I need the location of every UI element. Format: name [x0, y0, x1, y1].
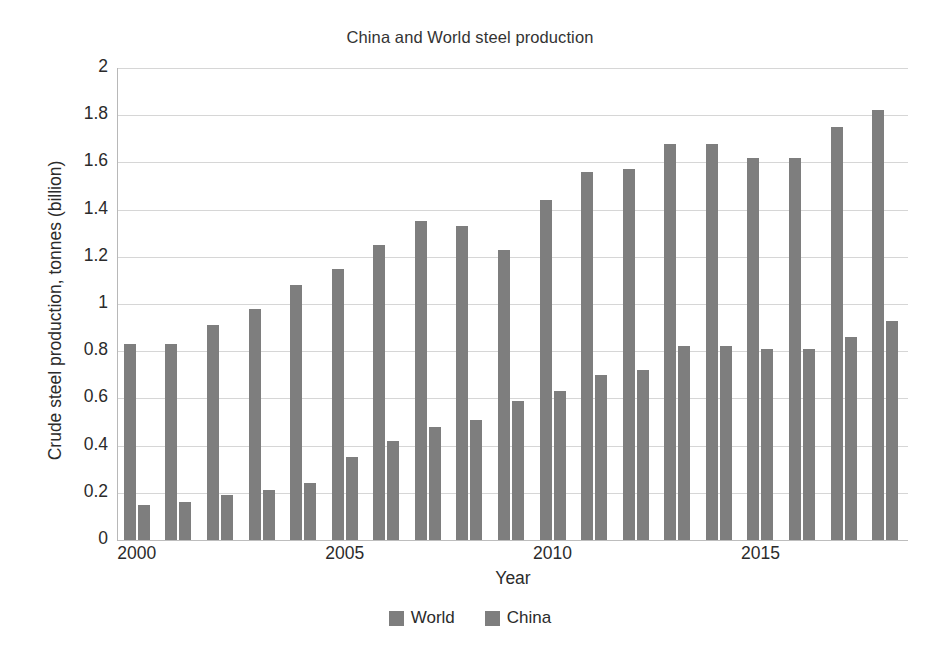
- bar-china-2015: [761, 349, 773, 540]
- gridline: [118, 68, 908, 69]
- y-tick-label: 0.2: [40, 481, 108, 502]
- y-tick-label: 0.8: [40, 339, 108, 360]
- bar-world-2001: [165, 344, 177, 540]
- bar-china-2009: [512, 401, 524, 540]
- x-tick-label: 2010: [516, 543, 590, 564]
- y-tick-label: 0: [40, 528, 108, 549]
- bar-world-2012: [623, 169, 635, 540]
- bar-world-2002: [207, 325, 219, 540]
- bar-world-2017: [831, 127, 843, 540]
- y-tick-label: 0.4: [40, 434, 108, 455]
- legend-swatch-icon: [485, 611, 500, 626]
- bar-world-2014: [706, 144, 718, 540]
- legend-swatch-icon: [389, 611, 404, 626]
- chart-figure: China and World steel production Crude s…: [0, 0, 940, 670]
- bar-china-2011: [595, 375, 607, 540]
- x-axis-title: Year: [118, 568, 908, 589]
- plot-area: [118, 68, 908, 540]
- chart-legend: WorldChina: [0, 608, 940, 628]
- bar-china-2005: [346, 457, 358, 540]
- y-tick-label: 1.6: [40, 150, 108, 171]
- bar-world-2018: [872, 110, 884, 540]
- bar-world-2005: [332, 269, 344, 540]
- bar-china-2016: [803, 349, 815, 540]
- bar-world-2011: [581, 172, 593, 540]
- x-tick-label: 2015: [723, 543, 797, 564]
- chart-title: China and World steel production: [0, 28, 940, 47]
- y-tick-label: 0.6: [40, 386, 108, 407]
- bar-china-2008: [470, 420, 482, 540]
- bar-world-2008: [456, 226, 468, 540]
- legend-item-world[interactable]: World: [389, 608, 455, 628]
- bar-world-2013: [664, 144, 676, 540]
- legend-item-china[interactable]: China: [485, 608, 551, 628]
- bar-china-2017: [845, 337, 857, 540]
- x-tick-label: 2000: [100, 543, 174, 564]
- y-tick-label: 1.4: [40, 198, 108, 219]
- bar-china-2010: [554, 391, 566, 540]
- bar-china-2013: [678, 346, 690, 540]
- bar-china-2003: [263, 490, 275, 540]
- page-caption-partial: [58, 659, 478, 670]
- bar-china-2002: [221, 495, 233, 540]
- bar-world-2006: [373, 245, 385, 540]
- bar-world-2016: [789, 158, 801, 540]
- y-tick-label: 1: [40, 292, 108, 313]
- gridline: [118, 540, 908, 541]
- bar-china-2000: [138, 505, 150, 540]
- bar-china-2001: [179, 502, 191, 540]
- x-tick-label: 2005: [308, 543, 382, 564]
- legend-label: China: [507, 608, 551, 628]
- bar-world-2000: [124, 344, 136, 540]
- gridline: [118, 115, 908, 116]
- bar-china-2004: [304, 483, 316, 540]
- bar-world-2009: [498, 250, 510, 540]
- bar-world-2007: [415, 221, 427, 540]
- bar-world-2015: [747, 158, 759, 540]
- y-tick-label: 2: [40, 56, 108, 77]
- y-tick-label: 1.2: [40, 245, 108, 266]
- bar-china-2007: [429, 427, 441, 540]
- bar-china-2018: [886, 321, 898, 540]
- bar-china-2012: [637, 370, 649, 540]
- y-tick-label: 1.8: [40, 103, 108, 124]
- bar-world-2004: [290, 285, 302, 540]
- bar-china-2006: [387, 441, 399, 540]
- bar-world-2010: [540, 200, 552, 540]
- bar-world-2003: [249, 309, 261, 540]
- bar-china-2014: [720, 346, 732, 540]
- legend-label: World: [411, 608, 455, 628]
